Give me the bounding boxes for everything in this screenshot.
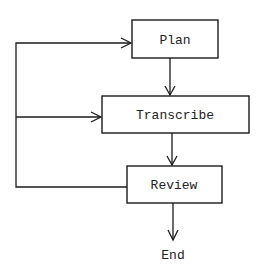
node-plan-label: Plan [159,33,190,48]
flowchart: Plan Transcribe Review End [0,0,264,272]
node-transcribe: Transcribe [102,96,249,133]
node-transcribe-label: Transcribe [136,108,214,123]
node-review-label: Review [151,178,198,193]
node-end-label: End [161,248,184,263]
node-review: Review [127,166,222,203]
node-plan: Plan [132,20,218,58]
